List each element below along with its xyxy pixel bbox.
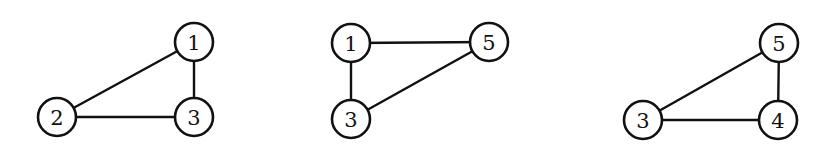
graph-diagram: 123 153 534 <box>0 0 832 150</box>
node-1: 1 <box>175 23 213 61</box>
graph-b-edges <box>351 42 489 119</box>
node-1: 1 <box>332 24 370 62</box>
graph-a: 123 <box>38 23 213 136</box>
node-label: 5 <box>772 32 785 56</box>
node-label: 4 <box>771 109 784 133</box>
node-label: 1 <box>344 32 357 56</box>
node-3: 3 <box>624 101 662 139</box>
node-label: 1 <box>187 31 200 55</box>
graph-c: 534 <box>624 24 798 139</box>
graph-a-edges <box>57 42 194 117</box>
node-4: 4 <box>759 101 797 139</box>
edge-1-5 <box>351 42 489 43</box>
node-3: 3 <box>175 98 213 136</box>
node-label: 3 <box>636 109 649 133</box>
edge-5-3 <box>643 43 779 120</box>
graph-diagram-canvas: 123 153 534 <box>0 0 832 150</box>
node-label: 2 <box>50 106 63 130</box>
node-label: 3 <box>187 106 200 130</box>
node-5: 5 <box>470 23 508 61</box>
graph-b: 153 <box>332 23 508 138</box>
node-3: 3 <box>332 100 370 138</box>
node-label: 3 <box>344 108 357 132</box>
edge-1-2 <box>57 42 194 117</box>
node-label: 5 <box>482 31 495 55</box>
edge-3-5 <box>351 42 489 119</box>
graph-c-edges <box>643 43 779 120</box>
node-5: 5 <box>760 24 798 62</box>
node-2: 2 <box>38 98 76 136</box>
